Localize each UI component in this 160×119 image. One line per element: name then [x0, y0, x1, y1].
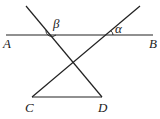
label-d: D	[97, 100, 108, 115]
label-b: B	[149, 36, 157, 51]
label-alpha: α	[115, 21, 123, 36]
line-to-d	[26, 6, 102, 97]
line-to-c	[32, 6, 140, 97]
label-a: A	[2, 36, 11, 51]
label-c: C	[25, 100, 34, 115]
label-beta: β	[52, 16, 60, 31]
geometry-diagram: β α A B C D	[0, 0, 160, 119]
